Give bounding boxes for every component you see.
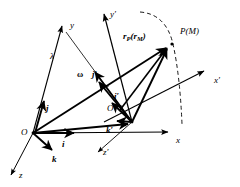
omega-label: ω <box>77 70 83 79</box>
position-vector-label-sub-M: M <box>137 35 143 42</box>
axis-label-z: z <box>19 171 23 180</box>
origin-label-O: O <box>21 128 28 137</box>
axis-label-z-prime: z′ <box>103 148 108 157</box>
unit-vector-label-j: j <box>46 104 49 113</box>
lambda-label: λ <box>50 52 54 61</box>
unit-vector-k-line <box>33 133 52 150</box>
point-label-P: P(M) <box>180 27 199 36</box>
diagram-canvas <box>0 0 240 187</box>
position-vector-label-paren-close: ) <box>143 31 146 41</box>
position-vector-from-Oprime-line <box>132 49 167 122</box>
origin-label-O-prime: O′ <box>107 104 115 113</box>
fixed-frame-axes <box>11 26 168 175</box>
unit-vector-label-i-prime: i′ <box>114 92 119 101</box>
unit-vector-label-i: i <box>62 140 65 149</box>
trajectory-dashed-path <box>140 12 182 124</box>
kinematics-diagram: y x z y′ x′ z′ O O′ i j k i′ j′ k′ ω λ P… <box>0 0 240 187</box>
vector-O-to-Oprime-line <box>33 124 128 133</box>
axis-label-y: y <box>70 21 74 30</box>
unit-vector-label-k-prime: k′ <box>106 126 113 135</box>
axis-z-line <box>11 133 33 175</box>
unit-vector-label-j-prime: j′ <box>92 70 97 79</box>
position-vector-label: rP(rM) <box>123 32 146 41</box>
position-vector-secondary-line <box>120 48 167 110</box>
unit-vector-k-prime-line <box>117 121 132 122</box>
origin-connector <box>33 124 128 133</box>
axis-label-x-prime: x′ <box>214 76 220 85</box>
origin-O-marker <box>32 132 35 135</box>
axis-label-x: x <box>176 136 180 145</box>
axis-label-y-prime: y′ <box>110 10 116 19</box>
position-vector-label-sub-P: P <box>127 35 131 42</box>
trajectory-curve <box>140 12 182 124</box>
unit-vector-label-k: k <box>52 155 57 164</box>
position-vector-label-r: r <box>123 31 127 41</box>
origin-Oprime-marker <box>131 121 134 124</box>
